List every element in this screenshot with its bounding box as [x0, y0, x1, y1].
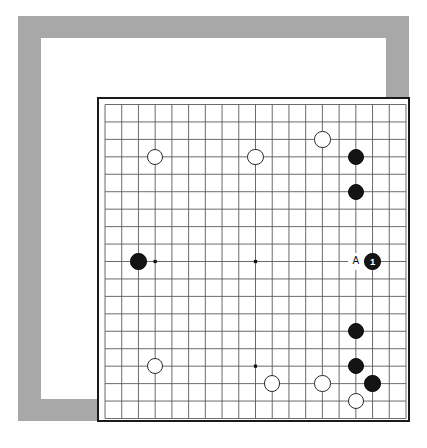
diagram-outer-frame: 1A	[18, 16, 409, 421]
black-stone[interactable]	[348, 184, 364, 200]
black-stone[interactable]	[130, 253, 146, 269]
white-stone[interactable]	[147, 149, 163, 165]
black-stone[interactable]	[348, 323, 364, 339]
black-stone[interactable]	[348, 149, 364, 165]
white-stone[interactable]	[247, 149, 263, 165]
go-board[interactable]: 1A	[97, 97, 410, 422]
stones-layer: 1A	[99, 99, 412, 424]
white-stone[interactable]	[314, 375, 330, 391]
white-stone[interactable]	[264, 375, 280, 391]
go-diagram-root: 1A	[0, 0, 427, 448]
point-label-a[interactable]: A	[348, 253, 364, 269]
black-stone[interactable]	[364, 375, 380, 391]
black-stone[interactable]: 1	[364, 253, 380, 269]
black-stone[interactable]	[348, 358, 364, 374]
stone-move-number: 1	[365, 254, 379, 268]
diagram-inner-mat: 1A	[41, 38, 386, 399]
white-stone[interactable]	[348, 393, 364, 409]
white-stone[interactable]	[314, 131, 330, 147]
white-stone[interactable]	[147, 358, 163, 374]
